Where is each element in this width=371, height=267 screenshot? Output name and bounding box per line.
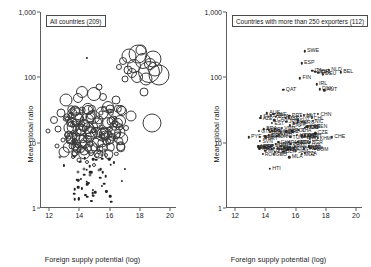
bubble-point <box>55 126 62 133</box>
bubble-point-small <box>73 155 76 158</box>
bubble-point <box>104 153 108 157</box>
panel-countries-over-250-exporters: Mean global ratio Foreign supply potenti… <box>186 0 371 267</box>
country-label-cluster: SEN <box>317 123 327 128</box>
bubble-point <box>121 75 128 82</box>
country-label-cluster: ZWE <box>276 112 287 117</box>
bubble-point <box>68 112 75 119</box>
bubble-point <box>80 178 82 180</box>
y-axis-label-right: Mean global ratio <box>212 105 221 162</box>
country-label-cluster: LAO <box>304 134 314 139</box>
x-tick-mark-left <box>49 208 50 211</box>
y-tick-mark-right <box>223 12 226 13</box>
bubble-point <box>81 187 83 189</box>
bubble-point <box>45 129 50 134</box>
y-tick-mark-left <box>37 142 40 143</box>
country-point-cluster <box>259 117 261 119</box>
bubble-point-small <box>94 191 97 194</box>
country-point-fin <box>299 77 301 79</box>
y-axis-line-left <box>40 12 41 208</box>
bubble-point-small <box>89 165 92 168</box>
country-label-cluster: KAZ <box>289 129 299 134</box>
bubble-point <box>76 171 79 174</box>
bubble-point <box>114 151 118 155</box>
country-label-swe: SWE <box>307 49 319 54</box>
panel-title-left: All countries (209) <box>46 15 106 27</box>
bubble-point <box>60 137 65 142</box>
bubble-point <box>116 64 122 70</box>
x-axis-label-left: Foreign supply potential (log) <box>0 255 185 264</box>
bubble-point-small <box>74 198 77 201</box>
country-label-cluster: MDG <box>275 142 287 147</box>
bubble-point-small <box>84 157 87 160</box>
bubble-point-small <box>77 198 80 201</box>
bubble-point <box>59 93 72 106</box>
x-tick-mark-left <box>79 208 80 211</box>
bubble-point-small <box>95 159 98 162</box>
country-label-cluster: GEO <box>276 151 287 156</box>
bubble-point <box>140 87 149 96</box>
bubble-point <box>116 143 125 152</box>
country-point-swe <box>303 50 305 52</box>
country-label-cluster: AZE <box>263 115 273 120</box>
bubble-point <box>99 93 107 101</box>
bubble-point <box>90 199 92 201</box>
bubble-point-small <box>101 171 104 174</box>
country-label-esp: ESP <box>304 60 315 65</box>
x-tick-mark-right <box>325 208 326 211</box>
country-label-cluster: MMR <box>268 134 280 139</box>
y-axis-label-left: Mean global ratio <box>26 105 35 162</box>
country-label-fra: FRA <box>321 70 332 75</box>
country-label-hti: HTI <box>272 166 281 171</box>
x-axis-label-right: Foreign supply potential (log) <box>186 255 371 264</box>
x-tick-mark-right <box>355 208 356 211</box>
x-tick-mark-left <box>169 208 170 211</box>
y-tick-mark-left <box>37 12 40 13</box>
bubble-point-small <box>108 158 111 161</box>
country-point-pyf <box>247 136 249 138</box>
bubble-point <box>85 160 89 164</box>
y-tick-mark-right <box>223 142 226 143</box>
bubble-point <box>63 164 65 166</box>
country-point-esp <box>300 62 302 64</box>
bubble-point <box>59 147 70 158</box>
x-tick-mark-left <box>109 208 110 211</box>
country-label-cluster: NPL <box>300 140 310 145</box>
bubble-point-small <box>92 158 95 161</box>
country-label-che: CHE <box>334 135 345 140</box>
bubble-point-small <box>73 192 76 195</box>
country-label-qat: QAT <box>286 87 297 92</box>
bubble-point <box>113 116 117 120</box>
plot-area-left: All countries (209) 1101001,000121416182… <box>40 12 176 208</box>
bubble-point-small <box>83 174 86 177</box>
bubble-point <box>88 173 91 176</box>
country-point-cluster <box>261 153 263 155</box>
x-tick-mark-left <box>139 208 140 211</box>
country-point-qat <box>282 89 284 91</box>
country-point-mla <box>288 156 290 158</box>
y-tick-mark-right <box>223 208 226 209</box>
bubble-point <box>136 45 147 56</box>
bubble-point <box>105 190 107 192</box>
bubble-point-small <box>77 186 80 189</box>
bubble-point-small <box>99 176 102 179</box>
bubble-point-small <box>79 161 82 164</box>
bubble-point <box>123 65 132 74</box>
x-tick-mark-right <box>265 208 266 211</box>
x-tick-mark-right <box>295 208 296 211</box>
country-label-cluster: MOZ <box>304 151 315 156</box>
bubble-point <box>79 106 86 113</box>
bubble-point <box>107 109 112 114</box>
panel-all-countries: Mean global ratio Foreign supply potenti… <box>0 0 185 267</box>
country-label-cluster: ZMB <box>287 146 298 151</box>
plot-area-right: Countries with more than 250 exporters (… <box>226 12 362 208</box>
country-label-dnk: DNK <box>322 86 333 91</box>
bubble-point-small <box>109 163 112 166</box>
bubble-point-small <box>85 169 88 172</box>
bubble-point <box>125 110 136 121</box>
country-label-fin: FIN <box>302 76 311 81</box>
y-tick-mark-left <box>37 208 40 209</box>
bubble-point <box>142 113 161 132</box>
bubble-point <box>111 95 120 104</box>
bubble-point <box>92 163 96 167</box>
bubble-point <box>54 143 59 148</box>
